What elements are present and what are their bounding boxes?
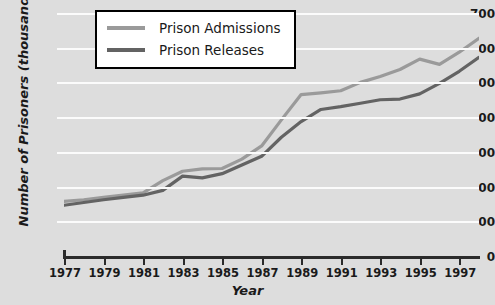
legend-color-swatch <box>107 26 145 30</box>
x-tick-label: 1983 <box>168 266 200 280</box>
y-tick-mark <box>57 48 64 50</box>
x-tick-label: 1977 <box>49 266 81 280</box>
x-tick-mark <box>341 259 343 265</box>
x-tick-mark <box>459 259 461 265</box>
x-axis-title: Year <box>0 283 495 298</box>
y-axis-corner <box>63 250 66 259</box>
x-tick-label: 1989 <box>286 266 318 280</box>
legend-item: Prison Admissions <box>107 17 280 39</box>
x-tick-label: 1997 <box>444 266 476 280</box>
y-tick-mark <box>57 117 64 119</box>
x-tick-label: 1995 <box>405 266 437 280</box>
gridline <box>64 152 479 154</box>
legend-item: Prison Releases <box>107 39 280 61</box>
legend-label: Prison Releases <box>159 42 264 58</box>
line-chart: Number of Prisoners (thousands) 01002003… <box>0 0 495 305</box>
gridline <box>64 221 479 223</box>
y-tick-mark <box>57 152 64 154</box>
y-tick-mark <box>57 221 64 223</box>
x-tick-label: 1981 <box>128 266 160 280</box>
gridline <box>64 187 479 189</box>
x-tick-mark <box>104 259 106 265</box>
x-tick-label: 1979 <box>89 266 121 280</box>
legend-label: Prison Admissions <box>159 20 280 36</box>
x-tick-label: 1993 <box>365 266 397 280</box>
x-axis-line <box>64 256 480 259</box>
gridline <box>64 117 479 119</box>
x-tick-mark <box>143 259 145 265</box>
x-tick-mark <box>380 259 382 265</box>
y-axis-title: Number of Prisoners (thousands) <box>16 0 31 227</box>
x-tick-mark <box>301 259 303 265</box>
x-tick-mark <box>222 259 224 265</box>
x-tick-mark <box>183 259 185 265</box>
x-tick-mark <box>420 259 422 265</box>
x-tick-label: 1991 <box>326 266 358 280</box>
y-tick-mark <box>57 187 64 189</box>
y-tick-mark <box>57 13 64 15</box>
gridline <box>64 82 479 84</box>
x-tick-label: 1985 <box>207 266 239 280</box>
x-tick-label: 1987 <box>247 266 279 280</box>
legend-color-swatch <box>107 48 145 52</box>
x-tick-mark <box>64 259 66 265</box>
chart-legend: Prison AdmissionsPrison Releases <box>95 10 296 69</box>
y-tick-mark <box>57 82 64 84</box>
x-tick-mark <box>262 259 264 265</box>
